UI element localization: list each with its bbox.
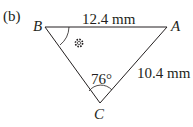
side-label-ba: 12.4 mm xyxy=(82,12,135,27)
figure-label: (b) xyxy=(3,9,21,24)
vertex-label-b: B xyxy=(33,19,42,34)
angle-label-c: 76° xyxy=(91,72,112,87)
side-label-ac: 10.4 mm xyxy=(137,66,190,81)
angle-arc-b xyxy=(60,27,69,45)
vertex-label-c: C xyxy=(94,107,104,122)
vertex-label-a: A xyxy=(171,19,180,34)
unknown-angle-icon xyxy=(75,39,82,46)
